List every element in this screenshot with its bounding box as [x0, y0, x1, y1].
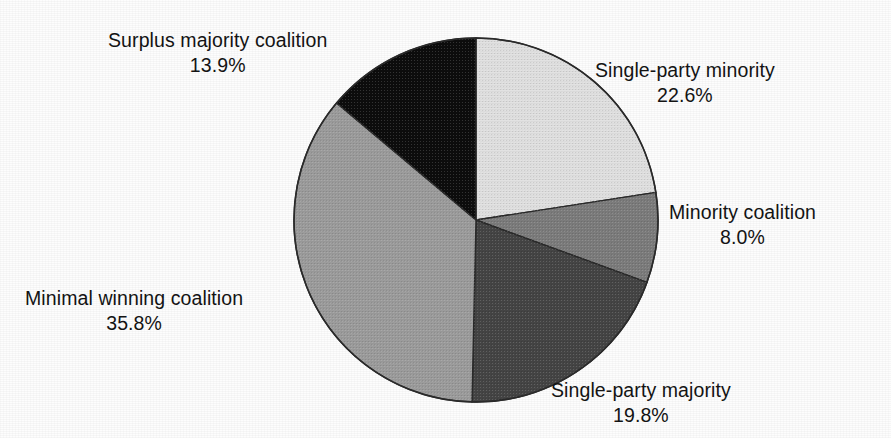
slice-label-name: Minimal winning coalition — [25, 286, 243, 311]
pie-chart-figure: Surplus majority coalition 13.9% Single-… — [0, 0, 891, 438]
slice-label-single-party-majority: Single-party majority 19.8% — [551, 378, 731, 428]
slice-label-name: Minority coalition — [669, 200, 816, 225]
slice-label-name: Single-party minority — [595, 58, 775, 83]
slice-label-percent: 13.9% — [108, 53, 327, 78]
slice-label-minimal-winning-coalition: Minimal winning coalition 35.8% — [25, 286, 243, 336]
slice-label-percent: 8.0% — [669, 225, 816, 250]
slice-label-surplus-majority-coalition: Surplus majority coalition 13.9% — [108, 28, 327, 78]
slice-label-percent: 35.8% — [25, 311, 243, 336]
slice-label-name: Single-party majority — [551, 378, 731, 403]
slice-label-percent: 22.6% — [595, 83, 775, 108]
slice-label-single-party-minority: Single-party minority 22.6% — [595, 58, 775, 108]
slice-label-name: Surplus majority coalition — [108, 28, 327, 53]
slice-label-minority-coalition: Minority coalition 8.0% — [669, 200, 816, 250]
slice-label-percent: 19.8% — [551, 403, 731, 428]
